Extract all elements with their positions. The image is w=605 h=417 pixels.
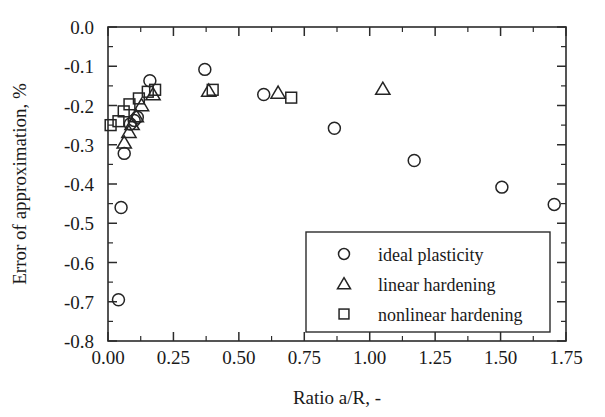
- y-tick-label: -0.1: [64, 56, 94, 77]
- data-point-triangle: [202, 84, 216, 96]
- x-axis-tick-labels: 0.000.250.500.751.001.251.501.75: [91, 347, 582, 368]
- data-point-triangle: [271, 86, 285, 98]
- x-tick-label: 1.75: [549, 347, 582, 368]
- data-point-circle: [496, 181, 508, 193]
- chart-figure: 0.000.250.500.751.001.251.501.75 -0.8-0.…: [0, 0, 605, 417]
- y-axis-title: Error of approximation, %: [9, 83, 30, 285]
- x-tick-label: 1.50: [484, 347, 517, 368]
- y-tick-label: -0.5: [64, 213, 94, 234]
- chart-legend: ideal plasticitylinear hardeningnonlinea…: [306, 232, 550, 332]
- data-point-circle: [258, 89, 270, 101]
- y-axis-tick-labels: -0.8-0.7-0.6-0.5-0.4-0.3-0.2-0.10.0: [64, 17, 95, 352]
- data-point-square: [286, 92, 297, 103]
- legend-label: ideal plasticity: [378, 245, 483, 265]
- series-linear-hardening: [117, 82, 390, 148]
- y-tick-label: -0.8: [64, 331, 94, 352]
- x-tick-label: 0.75: [288, 347, 321, 368]
- y-tick-label: -0.7: [64, 292, 94, 313]
- data-point-circle: [118, 147, 130, 159]
- legend-label: nonlinear hardening: [378, 305, 522, 325]
- y-tick-label: -0.4: [64, 174, 95, 195]
- x-tick-label: 0.25: [157, 347, 190, 368]
- x-axis-title: Ratio a/R, -: [293, 387, 381, 408]
- data-point-circle: [328, 122, 340, 134]
- x-tick-label: 0.50: [222, 347, 255, 368]
- x-tick-label: 1.00: [353, 347, 386, 368]
- x-tick-label: 1.25: [419, 347, 452, 368]
- data-point-circle: [548, 198, 560, 210]
- y-tick-label: -0.6: [64, 253, 94, 274]
- data-point-circle: [115, 202, 127, 214]
- y-tick-label: -0.2: [64, 96, 94, 117]
- x-tick-label: 0.00: [91, 347, 124, 368]
- data-point-circle: [112, 294, 124, 306]
- data-point-circle: [199, 63, 211, 75]
- legend-label: linear hardening: [378, 275, 495, 295]
- y-tick-label: 0.0: [70, 17, 94, 38]
- y-tick-label: -0.3: [64, 135, 94, 156]
- scatter-plot: 0.000.250.500.751.001.251.501.75 -0.8-0.…: [0, 0, 605, 417]
- data-point-triangle: [376, 82, 390, 94]
- data-point-circle: [408, 154, 420, 166]
